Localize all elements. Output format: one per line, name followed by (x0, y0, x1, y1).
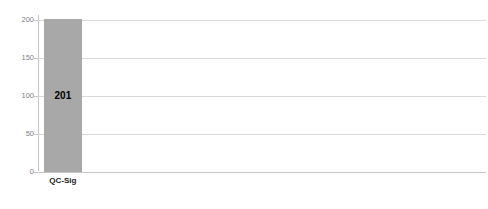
y-tick-label-200: 200 (8, 16, 34, 24)
signature-icon (53, 188, 73, 205)
gridline-150 (38, 58, 486, 59)
y-tick-label-0: 0 (8, 168, 34, 176)
category-label-QC-Sig: QC-Sig (38, 176, 88, 185)
bar-chart: 050100150200201QC-Sig (0, 0, 488, 209)
y-tick-0 (34, 172, 38, 173)
y-tick-50 (34, 134, 38, 135)
gridline-100 (38, 96, 486, 97)
y-tick-200 (34, 20, 38, 21)
value-label-QC-Sig: 201 (41, 90, 85, 101)
gridline-0 (38, 172, 486, 173)
y-tick-label-50: 50 (8, 130, 34, 138)
y-tick-label-150: 150 (8, 54, 34, 62)
y-tick-label-100: 100 (8, 92, 34, 100)
y-tick-150 (34, 58, 38, 59)
y-tick-100 (34, 96, 38, 97)
y-axis (38, 15, 39, 172)
gridline-50 (38, 134, 486, 135)
gridline-200 (38, 20, 486, 21)
